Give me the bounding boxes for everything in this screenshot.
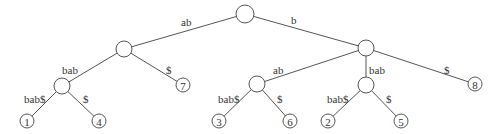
edge-label: $	[83, 93, 89, 105]
edge-label: bab$	[327, 93, 349, 105]
nodes-layer: 78143625	[20, 5, 482, 128]
internal-node	[358, 40, 374, 56]
internal-node	[358, 77, 374, 93]
tree-canvas: abbbab$bab$$abbab$bab$$bab$$ 78143625	[0, 0, 499, 134]
leaf-node-8: 8	[468, 77, 482, 91]
node-circle	[54, 78, 70, 94]
internal-node	[116, 41, 132, 57]
leaf-node-2: 2	[321, 114, 335, 128]
edge-label: ab	[273, 64, 284, 76]
internal-node	[236, 5, 254, 23]
node-circle	[236, 5, 254, 23]
node-circle	[358, 40, 374, 56]
edge-label: $	[277, 93, 283, 105]
edge-label: ab	[181, 16, 192, 28]
leaf-index: 3	[216, 116, 222, 128]
edge-label: $	[166, 64, 172, 76]
edge-labels-layer: abbbab$bab$$abbab$bab$$bab$$	[24, 14, 450, 105]
edge-n_ab-leaf7	[124, 49, 183, 85]
edge-label: bab	[62, 64, 78, 76]
node-circle	[358, 77, 374, 93]
edge-label: b	[291, 14, 297, 26]
internal-node	[54, 78, 70, 94]
edge-label: $	[444, 64, 450, 76]
leaf-node-7: 7	[176, 78, 190, 92]
leaf-node-4: 4	[92, 114, 106, 128]
leaf-node-1: 1	[20, 114, 34, 128]
node-circle	[116, 41, 132, 57]
edge-label: $	[386, 93, 392, 105]
leaf-node-3: 3	[212, 114, 226, 128]
leaf-index: 6	[287, 116, 293, 128]
leaf-index: 5	[398, 116, 404, 128]
edge-root-n_b	[245, 14, 366, 48]
leaf-node-6: 6	[283, 114, 297, 128]
edge-label: bab$	[24, 93, 46, 105]
suffix-tree-diagram: abbbab$bab$$abbab$bab$$bab$$ 78143625	[0, 0, 499, 134]
edge-label: bab$	[218, 93, 240, 105]
leaf-index: 2	[325, 116, 331, 128]
edge-label: bab	[369, 64, 385, 76]
internal-node	[249, 76, 265, 92]
node-circle	[249, 76, 265, 92]
leaf-index: 8	[472, 79, 478, 91]
leaf-node-5: 5	[394, 114, 408, 128]
edges-layer	[27, 14, 475, 121]
leaf-index: 4	[96, 116, 102, 128]
leaf-index: 7	[180, 80, 186, 92]
leaf-index: 1	[24, 116, 30, 128]
